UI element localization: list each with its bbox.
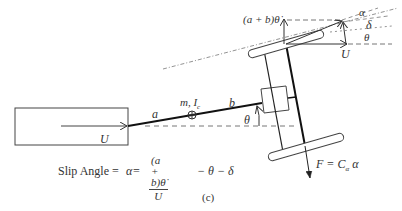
theta-arc [257, 106, 259, 126]
label-alpha: α [359, 7, 365, 18]
formula-fraction: (a + b)θ̇ U [149, 155, 168, 202]
thick-frame-line [286, 44, 305, 146]
label-theta-top: θ [364, 32, 369, 43]
figure-caption: (c) [202, 192, 214, 203]
diagram-canvas [0, 0, 402, 211]
label-a: a [152, 108, 158, 120]
label-lateral-velocity: (a + b)θ̇ [243, 14, 280, 25]
formula-denominator: U [154, 190, 162, 202]
label-force: F = Cα α [316, 158, 358, 173]
box-connector [288, 97, 296, 98]
label-u-left: U [100, 133, 109, 145]
label-delta: δ [366, 19, 372, 31]
center-of-mass-icon [188, 111, 196, 119]
label-u-right: U [341, 48, 350, 60]
formula-numerator: (a + b)θ̇ [149, 155, 168, 190]
right-vertical-arrow [343, 22, 346, 44]
formula-eq: = [133, 165, 140, 177]
formula-alpha: α [126, 165, 132, 177]
label-mass-inertia: m, Ic [180, 97, 200, 111]
label-theta-body: θ [244, 114, 250, 126]
theta-line [330, 26, 392, 32]
formula-prefix: Slip Angle = [58, 165, 119, 177]
label-b: b [229, 97, 235, 109]
formula-suffix: − θ − δ [197, 165, 234, 177]
